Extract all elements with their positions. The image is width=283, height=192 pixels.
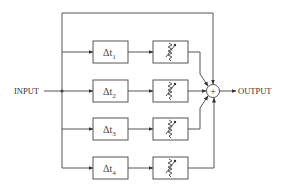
direct-path-line — [62, 13, 213, 84]
input-label: INPUT — [14, 86, 40, 96]
branch-4: Δt4 — [62, 98, 214, 179]
branch-2: Δt2 — [62, 80, 206, 102]
output-label: OUTPUT — [238, 86, 272, 96]
plus-icon: + — [210, 86, 216, 97]
delay-line-diagram: INPUT Δt1 Δt2 Δt3 — [0, 0, 283, 192]
summing-junction: + — [207, 85, 220, 98]
branch-3: Δt3 — [62, 96, 208, 140]
branch-1: Δt1 — [62, 41, 208, 86]
